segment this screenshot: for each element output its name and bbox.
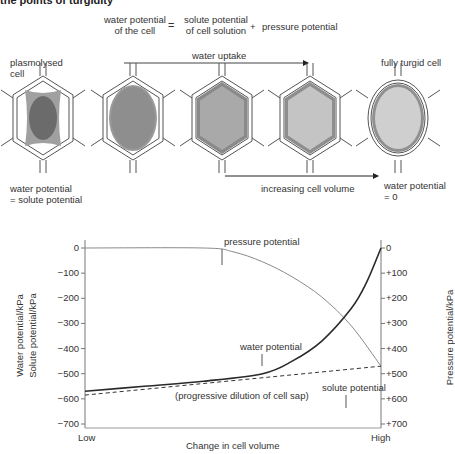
adjacent-wall bbox=[268, 90, 280, 98]
pressure-potential-line bbox=[85, 248, 381, 366]
adjacent-wall bbox=[252, 138, 264, 146]
x-tick-low: Low bbox=[78, 432, 95, 443]
y-tick-label-left: −300 bbox=[51, 317, 79, 328]
adjacent-wall bbox=[428, 90, 440, 98]
cell-2 bbox=[91, 63, 175, 173]
adjacent-wall bbox=[73, 138, 85, 146]
cell-3 bbox=[180, 63, 264, 173]
y-tick-label-right: +700 bbox=[386, 418, 407, 429]
dilution-annotation: (progressive dilution of cell sap) bbox=[175, 390, 309, 401]
adjacent-wall bbox=[356, 90, 368, 98]
y-tick-label-right: +300 bbox=[386, 317, 407, 328]
vacuole bbox=[111, 87, 155, 149]
y-tick-label-right: +100 bbox=[386, 267, 407, 278]
y-tick-label-left: −600 bbox=[51, 393, 79, 404]
adjacent-wall bbox=[163, 138, 175, 146]
y-tick-label-right: +500 bbox=[386, 368, 407, 379]
adjacent-wall bbox=[91, 90, 103, 98]
adjacent-wall bbox=[180, 138, 192, 146]
adjacent-wall bbox=[163, 90, 175, 98]
y-axis-label-water: Water potential/kPa bbox=[14, 294, 25, 377]
cell-4 bbox=[268, 63, 352, 173]
y-tick-label-left: −500 bbox=[51, 368, 79, 379]
adjacent-wall bbox=[268, 138, 280, 146]
x-axis-label: Change in cell volume bbox=[186, 440, 279, 451]
adjacent-wall bbox=[1, 90, 13, 98]
vacuole bbox=[29, 96, 57, 140]
adjacent-wall bbox=[252, 90, 264, 98]
cell-1 bbox=[1, 63, 85, 173]
adjacent-wall bbox=[91, 138, 103, 146]
adjacent-wall bbox=[340, 90, 352, 98]
y-tick-label-left: 0 bbox=[51, 242, 79, 253]
cell-5 bbox=[356, 63, 440, 173]
adjacent-wall bbox=[428, 138, 440, 146]
y-tick-label-left: −700 bbox=[51, 418, 79, 429]
adjacent-wall bbox=[340, 138, 352, 146]
adjacent-wall bbox=[356, 138, 368, 146]
adjacent-wall bbox=[73, 90, 85, 98]
y-tick-label-right: 0 bbox=[386, 242, 391, 253]
y-tick-label-left: −400 bbox=[51, 343, 79, 354]
solute-potential-annotation: solute potential bbox=[322, 382, 386, 393]
y-tick-label-left: −100 bbox=[51, 267, 79, 278]
y-tick-label-left: −200 bbox=[51, 292, 79, 303]
vacuole bbox=[375, 87, 421, 149]
y-tick-label-right: +600 bbox=[386, 393, 407, 404]
adjacent-wall bbox=[1, 138, 13, 146]
y-axis-label-solute: Solute potential/kPa bbox=[27, 293, 38, 378]
y-tick-label-right: +200 bbox=[386, 292, 407, 303]
water-potential-annotation: water potential bbox=[240, 341, 302, 352]
y-tick-label-right: +400 bbox=[386, 343, 407, 354]
water-potential-line bbox=[85, 248, 381, 391]
y-axis-label-pressure: Pressure potential/kPa bbox=[444, 290, 455, 386]
adjacent-wall bbox=[180, 90, 192, 98]
pressure-potential-annotation: pressure potential bbox=[224, 236, 300, 247]
x-tick-high: High bbox=[371, 432, 391, 443]
